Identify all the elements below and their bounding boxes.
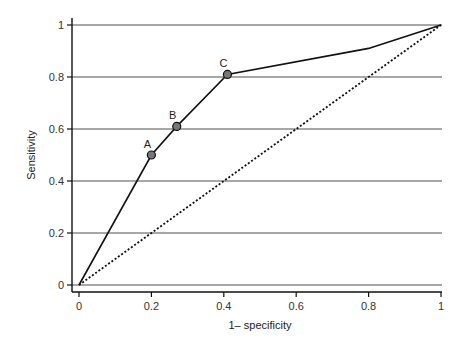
chance-line — [79, 25, 441, 285]
point-marker-a — [147, 151, 155, 159]
point-marker-c — [223, 70, 231, 78]
x-tick-label: 0.2 — [144, 300, 159, 312]
roc-curve — [79, 25, 441, 285]
point-label-c: C — [219, 57, 227, 69]
x-tick-label: 0.8 — [361, 300, 376, 312]
y-tick-label: 0.4 — [49, 175, 64, 187]
data-series — [79, 25, 441, 285]
point-label-b: B — [169, 109, 176, 121]
y-tick-label: 1 — [58, 19, 64, 31]
gridlines — [72, 25, 442, 285]
x-tick-label: 0 — [76, 300, 82, 312]
point-marker-b — [173, 122, 181, 130]
axes — [72, 18, 442, 292]
x-axis-title: 1– specificity — [229, 319, 292, 331]
x-axis-ticks: 00.20.40.60.81 — [76, 292, 444, 312]
point-label-a: A — [144, 138, 152, 150]
x-tick-label: 0.4 — [216, 300, 231, 312]
y-tick-label: 0.6 — [49, 123, 64, 135]
y-axis-ticks: 00.20.40.60.81 — [49, 19, 72, 291]
y-tick-label: 0.2 — [49, 227, 64, 239]
x-tick-label: 0.6 — [289, 300, 304, 312]
point-markers: ABC — [144, 57, 232, 159]
y-axis-title: Sensitivity — [25, 130, 37, 180]
y-tick-label: 0.8 — [49, 71, 64, 83]
y-tick-label: 0 — [58, 279, 64, 291]
x-tick-label: 1 — [438, 300, 444, 312]
roc-chart: 00.20.40.60.81 00.20.40.60.81 ABC 1– spe… — [0, 0, 468, 346]
